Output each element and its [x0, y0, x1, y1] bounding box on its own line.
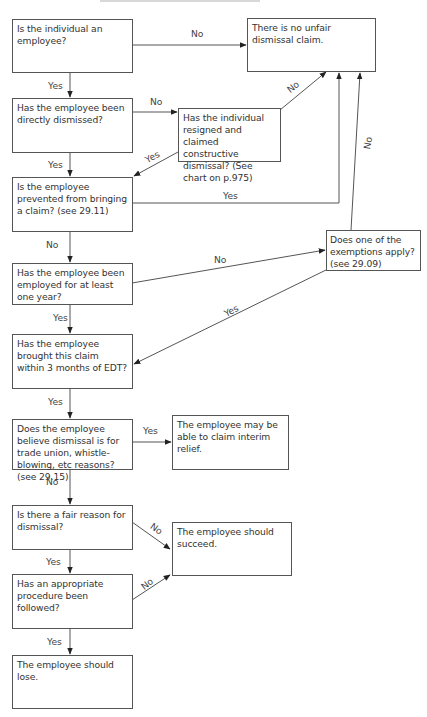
node-exemptions-apply: Does one of the exemptions apply? (see 2…: [326, 230, 421, 271]
node-prevented-from-claim: Is the employee prevented from bringing …: [12, 177, 133, 232]
node-constructive-dismissal: Has the individual resigned and claimed …: [178, 108, 281, 162]
edge-label-yes: Yes: [53, 313, 68, 323]
edge-label-yes: Yes: [223, 191, 238, 201]
node-interim-relief: The employee may be able to claim interi…: [172, 415, 289, 470]
node-is-employee: Is the individual an employee?: [12, 19, 133, 73]
edge-label-yes: Yes: [48, 81, 63, 91]
edge-label-yes: Yes: [143, 426, 158, 436]
edge-label-no: No: [46, 477, 59, 487]
edge-label-no: No: [150, 97, 163, 107]
node-trade-union-reasons: Does the employee believe dismissal is f…: [12, 419, 133, 470]
node-appropriate-procedure: Has an appropriate procedure been follow…: [12, 574, 133, 629]
edge-label-no: No: [214, 255, 227, 265]
edge-label-yes: Yes: [48, 397, 63, 407]
node-within-three-months: Has the employee brought this claim with…: [12, 334, 133, 389]
edge-label-no: No: [362, 136, 374, 150]
edge-label-no: No: [191, 29, 204, 39]
edge-label-no: No: [46, 240, 59, 250]
edge-label-yes: Yes: [47, 637, 62, 647]
node-employed-one-year: Has the employee been employed for at le…: [12, 263, 133, 305]
node-directly-dismissed: Has the employee been directly dismissed…: [12, 98, 133, 153]
edge-label-yes: Yes: [46, 557, 61, 567]
node-fair-reason: Is there a fair reason for dismissal?: [12, 505, 133, 550]
node-employee-should-succeed: The employee should succeed.: [172, 522, 292, 576]
node-employee-should-lose: The employee should lose.: [12, 655, 133, 709]
edge-label-yes: Yes: [48, 160, 63, 170]
node-no-unfair-dismissal-claim: There is no unfair dismissal claim.: [247, 18, 376, 72]
